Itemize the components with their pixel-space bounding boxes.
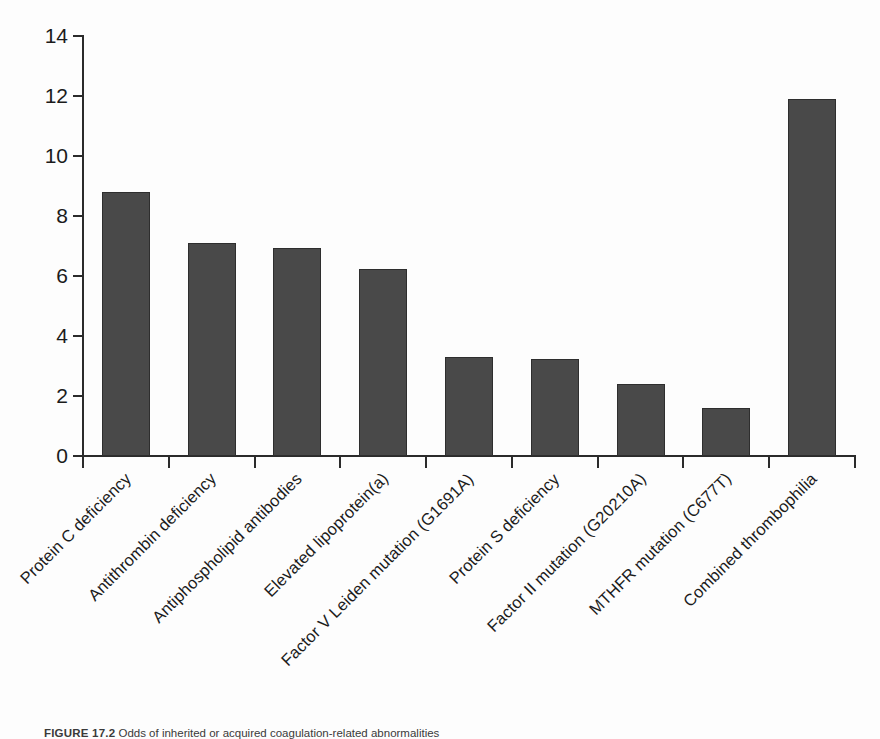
bar	[788, 99, 836, 456]
figure-caption: FIGURE 17.2 Odds of inherited or acquire…	[44, 726, 844, 739]
y-tick-mark	[73, 335, 83, 337]
y-tick-mark	[73, 215, 83, 217]
y-tick-label: 14	[0, 25, 68, 46]
y-tick-label: 6	[0, 265, 68, 286]
y-tick-mark	[73, 395, 83, 397]
y-tick-label: 4	[0, 325, 68, 346]
y-tick-mark	[73, 155, 83, 157]
y-tick-mark	[73, 275, 83, 277]
bar	[188, 243, 236, 456]
y-tick-label: 10	[0, 145, 68, 166]
caption-text: Odds of inherited or acquired coagulatio…	[118, 727, 439, 739]
y-tick-mark	[73, 35, 83, 37]
figure-container: 02468101214 Protein C deficiencyAntithro…	[0, 0, 880, 739]
bar	[359, 269, 407, 457]
bar	[617, 384, 665, 456]
bar	[102, 192, 150, 456]
bar	[531, 359, 579, 457]
plot-area	[83, 36, 855, 456]
bar	[445, 357, 493, 456]
bar	[273, 248, 321, 457]
x-axis-category-label: Antiphospholipid antibodies	[149, 470, 305, 626]
y-tick-label: 2	[0, 385, 68, 406]
x-axis-category-label: Factor V Leiden mutation (G1691A)	[278, 470, 476, 668]
x-axis-category-label: MTHFR mutation (C677T)	[586, 470, 734, 618]
y-tick-label: 8	[0, 205, 68, 226]
x-axis-category-label: Factor II mutation (G20210A)	[484, 470, 649, 635]
y-tick-mark	[73, 95, 83, 97]
bar	[702, 408, 750, 456]
figure-number: FIGURE 17.2	[44, 727, 115, 739]
y-tick-label: 12	[0, 85, 68, 106]
x-axis-labels: Protein C deficiencyAntithrombin deficie…	[0, 456, 880, 676]
